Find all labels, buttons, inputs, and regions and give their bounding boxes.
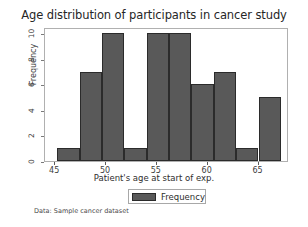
x-tick-mark <box>207 162 208 165</box>
legend-swatch-frequency <box>132 193 156 201</box>
y-tick-label: 8 <box>27 52 36 66</box>
legend-label-frequency: Frequency <box>161 192 205 202</box>
histogram-bar <box>214 72 236 161</box>
x-axis-label: Patient's age at start of exp. <box>0 173 308 183</box>
histogram-bar <box>236 148 258 161</box>
histogram-bar <box>57 148 79 161</box>
y-tick-label: 4 <box>27 103 36 117</box>
legend-box: Frequency <box>128 189 206 204</box>
data-source-note: Data: Sample cancer dataset <box>34 207 129 215</box>
x-tick-mark <box>156 162 157 165</box>
y-tick-label: 0 <box>27 155 36 169</box>
y-tick-label: 10 <box>27 27 36 41</box>
histogram-bar <box>191 84 213 161</box>
x-tick-mark <box>54 162 55 165</box>
chart-title: Age distribution of participants in canc… <box>0 8 308 22</box>
histogram-bar <box>102 33 124 161</box>
x-tick-mark <box>258 162 259 165</box>
histogram-bar <box>259 97 281 161</box>
histogram-bar <box>147 33 169 161</box>
histogram-bar <box>80 72 102 161</box>
y-tick-mark <box>41 162 44 163</box>
x-tick-mark <box>105 162 106 165</box>
y-tick-label: 2 <box>27 129 36 143</box>
chart-figure: Age distribution of participants in canc… <box>0 0 308 227</box>
histogram-bar <box>169 33 191 161</box>
plot-area <box>44 28 288 162</box>
histogram-bar <box>124 148 146 161</box>
y-tick-label: 6 <box>27 78 36 92</box>
